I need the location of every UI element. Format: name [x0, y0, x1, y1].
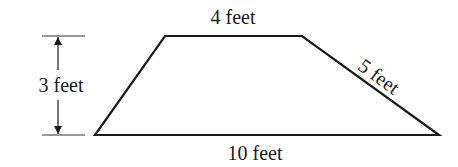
- bottom-base-label: 10 feet: [228, 142, 283, 164]
- diagram-canvas: 4 feet 3 feet 10 feet 5 feet: [0, 0, 458, 167]
- trapezoid-diagram: 4 feet 3 feet 10 feet 5 feet: [0, 0, 458, 167]
- height-label: 3 feet: [39, 74, 84, 96]
- top-base-label: 4 feet: [211, 6, 256, 28]
